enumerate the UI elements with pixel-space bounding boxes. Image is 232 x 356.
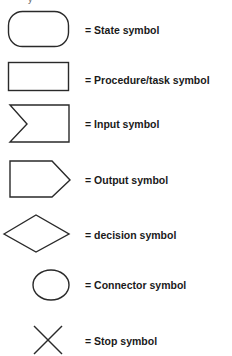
connector-symbol-icon <box>33 270 69 300</box>
title-fragment: y <box>28 0 33 4</box>
output-symbol-icon <box>10 161 70 197</box>
decision-symbol-label: = decision symbol <box>85 229 176 241</box>
stop-symbol-icon <box>34 326 62 354</box>
flowchart-symbol-legend: y = State symbol = Procedure/task symbol… <box>0 0 232 356</box>
decision-symbol-icon <box>4 215 69 252</box>
procedure-symbol-label: = Procedure/task symbol <box>85 74 210 86</box>
stop-symbol-label: = Stop symbol <box>85 335 157 347</box>
state-symbol-label: = State symbol <box>85 24 159 36</box>
state-symbol-icon <box>9 12 69 47</box>
input-symbol-label: = Input symbol <box>85 118 159 130</box>
output-symbol-label: = Output symbol <box>85 174 168 186</box>
input-symbol-icon <box>10 105 69 142</box>
procedure-symbol-icon <box>9 63 69 91</box>
connector-symbol-label: = Connector symbol <box>85 279 186 291</box>
